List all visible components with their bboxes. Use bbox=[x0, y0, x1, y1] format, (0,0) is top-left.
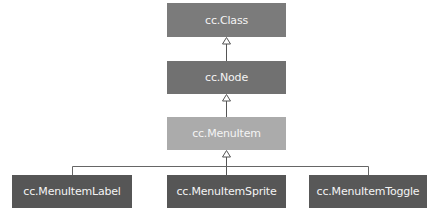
inheritance-arrow-icon bbox=[223, 38, 231, 45]
node-label: cc.Node bbox=[205, 71, 248, 84]
node-cc-menuitemtoggle: cc.MenuItemToggle bbox=[309, 175, 427, 208]
node-label: cc.MenuItemSprite bbox=[176, 185, 276, 198]
inheritance-arrow-icon bbox=[223, 95, 231, 102]
node-cc-menuitemlabel: cc.MenuItemLabel bbox=[12, 175, 132, 208]
node-cc-node: cc.Node bbox=[167, 61, 286, 94]
node-cc-menuitem: cc.MenuItem bbox=[167, 117, 286, 150]
node-label: cc.MenuItemToggle bbox=[317, 185, 420, 198]
node-cc-class: cc.Class bbox=[167, 3, 286, 37]
node-label: cc.MenuItemLabel bbox=[23, 185, 120, 198]
node-label: cc.MenuItem bbox=[192, 127, 261, 140]
node-label: cc.Class bbox=[205, 14, 248, 27]
inheritance-arrow-icon bbox=[223, 151, 231, 158]
node-cc-menuitemsprite: cc.MenuItemSprite bbox=[167, 175, 286, 208]
